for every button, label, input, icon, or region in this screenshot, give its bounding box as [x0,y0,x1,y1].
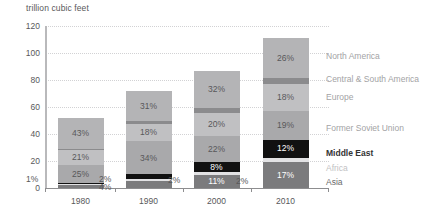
legend-item-north-america[interactable]: North America [326,51,380,61]
legend-item-africa[interactable]: Africa [326,163,348,173]
bar-segment-2000-former-soviet-union: 22% [194,136,240,162]
bar-segment-2000-central-south-america [194,108,240,113]
bar-segment-2010-central-south-america [263,78,309,84]
bar-segment-2000-asia: 11% [194,175,240,188]
segment-value-label: 26% [277,54,294,63]
segment-value-label: 32% [208,85,225,94]
legend-item-middle-east[interactable]: Middle East [326,148,373,158]
segment-value-label: 18% [277,93,294,102]
y-axis-tick-text: 60 [10,102,40,112]
y-axis-tick-text: 120 [10,21,40,31]
segment-value-label: 17% [277,171,294,180]
bar-segment-2010-europe: 18% [263,84,309,111]
bar-2010: 17%12%19%18%26% [263,37,309,188]
y-axis-tick-text: 40 [10,129,40,139]
y-axis-tick-label: 120 [6,21,40,31]
y-axis-tick-label: 20 [6,156,40,166]
y-axis-tick-text: 0 [10,183,40,193]
x-axis-tick-mark [328,188,329,192]
y-axis-tick-label: 40 [6,129,40,139]
bar-segment-2010-africa [263,158,309,163]
y-axis-tick-label: 60 [6,102,40,112]
segment-value-label: 20% [208,120,225,129]
x-axis-tick-label-2010: 2010 [256,196,316,206]
bar-1980: 25%21%43% [58,116,104,188]
label-1980-middle-east-outside: 1% [26,174,38,184]
bar-segment-1990-africa [126,179,172,181]
label-1990-africa-outside: 2% [168,175,180,185]
y-axis-tick-text: 20 [10,156,40,166]
bar-segment-1990-europe: 18% [126,124,172,141]
legend-item-asia[interactable]: Asia [326,177,343,187]
x-axis-tick-mark [251,188,252,192]
x-axis-tick-label-1980: 1980 [51,196,111,206]
bar-segment-1990-asia [126,181,172,188]
y-axis-tick-label: 80 [6,75,40,85]
bar-segment-1980-north-america: 43% [58,118,104,149]
bar-segment-1990-former-soviet-union: 34% [126,141,172,174]
segment-value-label: 31% [140,102,157,111]
legend-item-former-soviet-union[interactable]: Former Soviet Union [326,123,404,133]
segment-value-label: 18% [140,128,157,137]
y-axis-tick-text: 100 [10,48,40,58]
segment-value-label: 34% [140,154,157,163]
stacked-bar-chart: trillion cubic feet 020406080100120 25%2… [0,0,439,219]
label-2000-africa-outside: 2% [236,176,248,186]
y-axis-line [45,26,47,188]
bar-segment-2000-north-america: 32% [194,71,240,109]
legend-item-europe[interactable]: Europe [326,92,353,102]
segment-value-label: 21% [72,153,89,162]
bar-segment-2000-africa [194,172,240,176]
x-axis-tick-label-1990: 1990 [119,196,179,206]
bar-2000: 11%8%22%20%32% [194,71,240,188]
y-axis-tick-text: 80 [10,75,40,85]
segment-value-label: 12% [277,144,294,153]
bar-segment-1980-asia [58,185,104,188]
segment-value-label: 11% [208,177,224,186]
bar-1990: 34%18%31% [126,91,172,188]
segment-value-label: 22% [208,145,225,154]
bar-segment-1990-north-america: 31% [126,91,172,121]
y-axis-title: trillion cubic feet [26,3,89,13]
bar-segment-1990-central-south-america [126,121,172,124]
x-axis-tick-mark [115,188,116,192]
bar-segment-2000-middle-east: 8% [194,162,240,171]
bar-segment-1980-central-south-america [58,149,104,150]
label-1980-asia-outside: 4% [99,182,111,192]
segment-value-label: 43% [72,129,89,138]
bar-segment-1980-africa [58,184,104,185]
x-axis-tick-mark [183,188,184,192]
x-axis-tick-label-2000: 2000 [187,196,247,206]
y-axis-tick-label: 0 [6,183,40,193]
bar-segment-2010-asia: 17% [263,162,309,188]
segment-value-label: 19% [277,121,294,130]
x-axis-tick-mark [45,188,46,192]
bar-segment-1980-middle-east [58,183,104,184]
bar-segment-1980-former-soviet-union: 25% [58,165,104,183]
bar-segment-1990-middle-east [126,174,172,179]
bar-segment-2010-north-america: 26% [263,38,309,77]
bar-segment-2010-middle-east: 12% [263,140,309,158]
y-axis-tick-label: 100 [6,48,40,58]
x-axis-line [45,188,329,189]
segment-value-label: 8% [210,163,222,172]
legend-item-central-south-america[interactable]: Central & South America [326,74,419,84]
bar-segment-2010-former-soviet-union: 19% [263,111,309,140]
gridline [46,26,329,27]
bar-segment-2000-europe: 20% [194,113,240,136]
bar-segment-1980-europe: 21% [58,150,104,165]
segment-value-label: 25% [72,170,89,179]
